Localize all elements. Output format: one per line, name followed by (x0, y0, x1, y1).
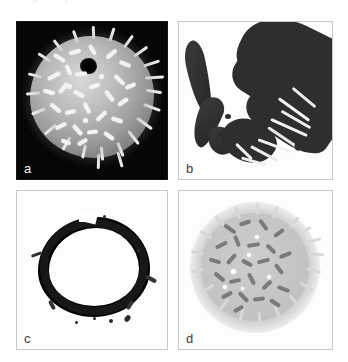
panel-a-image: a (17, 22, 167, 179)
panel-d: d (178, 190, 333, 350)
panel-b: b (178, 21, 333, 180)
panel-d-image: d (179, 191, 332, 349)
disc-body-d (201, 213, 309, 321)
panel-label-b: b (186, 162, 193, 175)
panel-a: a (16, 21, 168, 180)
panel-c: c (16, 190, 168, 350)
panel-c-image: c (17, 191, 167, 349)
panel-b-image: b (179, 22, 332, 179)
panel-label-a: a (24, 162, 31, 175)
panel-label-d: d (186, 332, 193, 345)
panel-label-c: c (24, 332, 31, 345)
figure-panel-grid: a (0, 0, 348, 362)
